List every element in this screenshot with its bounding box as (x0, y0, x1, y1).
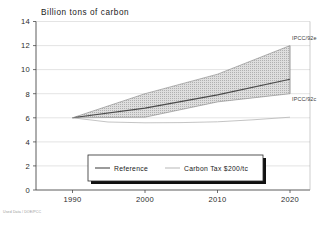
chart-figure: 14 12 10 8 6 4 2 0 1990 2000 2010 2020 B… (0, 0, 324, 225)
y-tick-label: 0 (25, 186, 30, 195)
chart-title: Billion tons of carbon (41, 8, 129, 17)
carbon-emissions-chart: 14 12 10 8 6 4 2 0 1990 2000 2010 2020 B… (0, 0, 324, 225)
x-tick-label: 2000 (136, 195, 154, 204)
annotation-ipcc92c: IPCC/92c (292, 96, 316, 102)
y-tick-label: 8 (25, 90, 30, 99)
y-tick-label: 12 (21, 41, 30, 50)
annotation-ipcc92e: IPCC/92e (292, 35, 317, 41)
y-tick-label: 10 (21, 65, 30, 74)
y-tick-label: 6 (25, 114, 30, 123)
y-tick-label: 4 (25, 138, 30, 147)
x-tick-label: 2020 (281, 195, 299, 204)
legend-label-carbon-tax: Carbon Tax $200/tc (184, 165, 249, 172)
x-tick-label: 1990 (63, 195, 81, 204)
y-tick-label: 14 (21, 17, 30, 26)
legend-label-reference: Reference (114, 165, 148, 172)
x-tick-label: 2010 (208, 195, 226, 204)
footer-credit: Used Data / DOE/PCC (3, 210, 42, 214)
y-tick-label: 2 (25, 162, 30, 171)
